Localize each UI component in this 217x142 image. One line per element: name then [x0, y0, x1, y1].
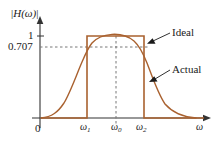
- x-tick-label-omega-1: ω1: [80, 122, 91, 134]
- actual-response-curve: [41, 34, 196, 118]
- x-tick-label-omega-2: ω2: [136, 122, 147, 134]
- x-axis-label: ω: [196, 122, 203, 132]
- x-tick-label-omega-0: ω0: [111, 122, 122, 134]
- ideal-leader-line: [147, 33, 170, 44]
- y-axis: [37, 16, 44, 128]
- ideal-label: Ideal: [172, 27, 194, 38]
- y-axis-label: |H(ω)|: [11, 8, 38, 19]
- x-origin-label: 0: [35, 123, 41, 134]
- actual-label: Actual: [172, 64, 201, 75]
- bandpass-response-figure: |H(ω)| 1 0.707 0 ω1 ω0 ω2 ω Ideal Actual: [0, 0, 217, 142]
- ideal-response-curve: [41, 36, 204, 118]
- y-tick-label-half-power: 0.707: [8, 41, 33, 52]
